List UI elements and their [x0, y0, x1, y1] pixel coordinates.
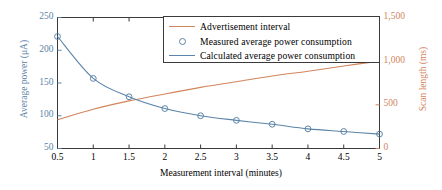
- legend-item-calculated-power: Calculated average power consumption: [164, 48, 379, 63]
- legend-label-calculated: Calculated average power consumption: [200, 50, 355, 61]
- x-tick-label-8: 4.5: [328, 152, 360, 162]
- y-left-tick-label-1: 100: [22, 109, 54, 119]
- legend-label-measured: Measured average power consumption: [200, 36, 352, 47]
- x-tick-label-1: 1: [77, 152, 109, 162]
- x-tick-label-4: 2.5: [185, 152, 217, 162]
- y-axis-right-title: Scan length (ms): [418, 9, 428, 149]
- x-tick-label-2: 1.5: [113, 152, 145, 162]
- x-tick-label-9: 5: [364, 152, 396, 162]
- x-axis-title: Measurement interval (minutes): [0, 168, 442, 178]
- legend-line-icon-advertisement: [164, 26, 200, 27]
- y-left-tick-label-2: 150: [22, 77, 54, 87]
- y-right-tick-label-3: 1,500: [384, 11, 424, 21]
- y-left-tick-label-0: 50: [22, 142, 54, 152]
- circle-marker-icon-measured: [164, 38, 200, 45]
- x-tick-label-5: 3: [220, 152, 252, 162]
- x-tick-label-3: 2: [149, 152, 181, 162]
- legend-item-advertisement-interval: Advertisement interval: [164, 19, 379, 34]
- y-right-tick-label-0: 0: [384, 142, 424, 152]
- legend-line-icon-calculated: [164, 55, 200, 56]
- x-tick-label-0: 0.5: [42, 152, 74, 162]
- legend-item-measured-power: Measured average power consumption: [164, 34, 379, 49]
- y-left-tick-label-4: 250: [22, 11, 54, 21]
- y-right-tick-label-1: 500: [384, 98, 424, 108]
- x-tick-label-6: 3.5: [256, 152, 288, 162]
- chart-figure: Average power (μA) Scan length (ms) Meas…: [0, 0, 442, 190]
- advertisement-interval-line: [58, 61, 380, 120]
- x-tick-label-7: 4: [292, 152, 324, 162]
- legend-label-advertisement: Advertisement interval: [200, 21, 290, 32]
- y-right-tick-label-2: 1,000: [384, 55, 424, 65]
- y-left-tick-label-3: 200: [22, 44, 54, 54]
- chart-legend: Advertisement interval Measured average …: [163, 16, 380, 63]
